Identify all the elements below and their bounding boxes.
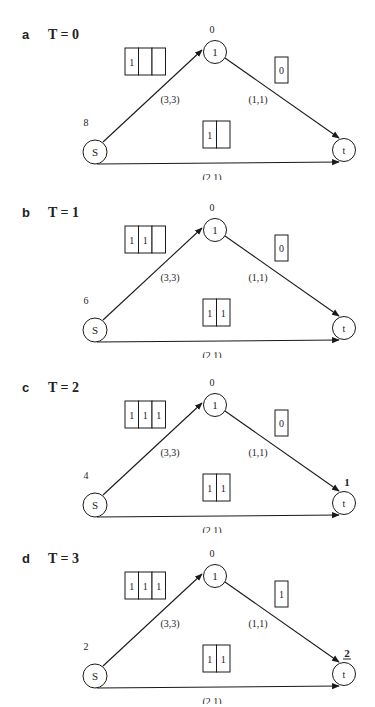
queue-1-to-t: 0 [275, 57, 288, 83]
edge-1-to-t-label: (1,1) [248, 447, 267, 459]
queue-cell-value: 1 [143, 410, 148, 421]
queue-cell-value: 1 [221, 483, 226, 494]
panel-title: T = 2 [48, 380, 79, 395]
edge-s-to-t-label: (2,1) [202, 696, 221, 704]
source-value: 8 [84, 117, 89, 128]
panel-title: T = 1 [48, 205, 79, 220]
edge-1-to-t-label: (1,1) [248, 272, 267, 284]
node-1-value: 0 [210, 24, 215, 35]
network-diagram: a T = 0 1 0 S 8 t (3,3) (1,1) (2,1) [0, 0, 375, 180]
node-1-label: 1 [212, 224, 218, 236]
queue-cell-value: 1 [143, 235, 148, 246]
panel-letter: a [22, 27, 30, 42]
edge-s-to-t [97, 340, 339, 342]
edge-s-to-1-label: (3,3) [160, 447, 179, 459]
network-diagram: c T = 2 1 0 S 4 t 1 (3,3) (1,1) (2,1) [0, 353, 375, 533]
node-1-label: 1 [212, 399, 218, 411]
queue-cell-value: 1 [207, 130, 212, 141]
queue-s-to-1: 111 [125, 401, 166, 428]
queue-cell-value: 1 [279, 589, 284, 600]
network-diagram: d T = 3 1 0 S 2 t 2 (3,3) (1,1) (2,1) [0, 524, 375, 704]
sink-label: t [343, 145, 346, 156]
node-1-label: 1 [212, 570, 218, 582]
panel-letter: c [22, 380, 29, 395]
queue-s-to-t: 11 [203, 474, 230, 501]
node-1-value: 0 [210, 377, 215, 388]
edge-s-to-1-label: (3,3) [160, 618, 179, 630]
edge-s-to-t [97, 686, 339, 688]
edge-s-to-1-label: (3,3) [160, 272, 179, 284]
source-label: S [92, 324, 98, 336]
queue-cell-value: 1 [129, 581, 134, 592]
queue-cell-value: 1 [156, 581, 161, 592]
queue-cell-value: 1 [207, 308, 212, 319]
queue-s-to-t: 11 [203, 645, 230, 672]
queue-cell [139, 48, 153, 75]
queue-1-to-t: 0 [275, 410, 288, 436]
queue-s-to-1: 1 [125, 48, 166, 75]
network-diagram: b T = 1 1 0 S 6 t (3,3) (1,1) (2,1) [0, 178, 375, 358]
node-1-label: 1 [212, 46, 218, 58]
source-value: 6 [84, 295, 89, 306]
sink-label: t [343, 498, 346, 509]
queue-cell-value: 0 [279, 243, 284, 254]
panel-letter: d [22, 551, 30, 566]
queue-cell-value: 1 [143, 581, 148, 592]
queue-cell-value: 1 [221, 654, 226, 665]
sink-value: 2 [344, 647, 350, 659]
queue-1-to-t: 1 [275, 581, 288, 607]
queue-s-to-1: 111 [125, 572, 166, 599]
edge-1-to-t-label: (1,1) [248, 618, 267, 630]
edge-s-to-1-label: (3,3) [160, 94, 179, 106]
source-label: S [92, 146, 98, 158]
queue-cell-value: 1 [156, 410, 161, 421]
queue-s-to-t: 1 [203, 121, 230, 148]
queue-s-to-t: 11 [203, 299, 230, 326]
sink-label: t [343, 669, 346, 680]
queue-cell-value: 1 [207, 483, 212, 494]
panel-letter: b [22, 205, 30, 220]
time-step-panel-b: b T = 1 1 0 S 6 t (3,3) (1,1) (2,1) [0, 178, 375, 356]
node-1-value: 0 [210, 202, 215, 213]
panel-title: T = 0 [48, 27, 79, 42]
edge-1-to-t-label: (1,1) [248, 94, 267, 106]
node-1-value: 0 [210, 548, 215, 559]
sink-value: 1 [344, 476, 350, 488]
queue-cell-value: 0 [279, 418, 284, 429]
time-step-panel-a: a T = 0 1 0 S 8 t (3,3) (1,1) (2,1) [0, 0, 375, 178]
time-step-panel-d: d T = 3 1 0 S 2 t 2 (3,3) (1,1) (2,1) [0, 524, 375, 702]
queue-cell [152, 48, 166, 75]
queue-cell-value: 1 [207, 654, 212, 665]
queue-cell-value: 1 [221, 308, 226, 319]
source-label: S [92, 670, 98, 682]
time-step-panel-c: c T = 2 1 0 S 4 t 1 (3,3) (1,1) (2,1) [0, 353, 375, 531]
queue-cell [217, 121, 231, 148]
source-label: S [92, 499, 98, 511]
queue-cell-value: 1 [129, 410, 134, 421]
source-value: 4 [84, 470, 89, 481]
queue-cell-value: 1 [129, 57, 134, 68]
edge-s-to-t [97, 515, 339, 517]
queue-cell-value: 0 [279, 65, 284, 76]
source-value: 2 [84, 641, 89, 652]
panel-title: T = 3 [48, 551, 79, 566]
queue-cell [152, 226, 166, 253]
queue-1-to-t: 0 [275, 235, 288, 261]
queue-cell-value: 1 [129, 235, 134, 246]
edge-s-to-t [97, 162, 339, 164]
queue-s-to-1: 11 [125, 226, 166, 253]
sink-label: t [343, 323, 346, 334]
